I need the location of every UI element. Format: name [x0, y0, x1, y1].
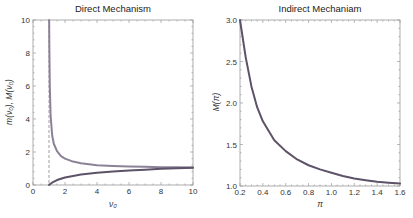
figure: Direct Mechanism 02468100246810 ν₀ m(ν₀)… — [0, 0, 413, 218]
y-tick-label: 6 — [26, 82, 31, 91]
y-tick-label: 4 — [26, 115, 31, 124]
y-tick-label: 2.5 — [226, 58, 238, 67]
x-tick-label: 2 — [63, 187, 68, 196]
x-tick-label: 10 — [189, 187, 198, 196]
x-tick-label: 0.4 — [257, 188, 269, 197]
x-tick-label: 0.6 — [280, 188, 292, 197]
y-tick-label: 1.0 — [226, 182, 238, 191]
y-axis-label-indirect: M(π) — [211, 93, 221, 112]
axis-ticks-indirect: 0.20.40.60.81.01.21.41.61.01.52.02.53.0 — [226, 16, 406, 197]
y-tick-label: 2 — [26, 148, 31, 157]
x-tick-label: 0.8 — [303, 188, 315, 197]
x-tick-label: 1.2 — [349, 188, 361, 197]
x-axis-label-indirect: π — [317, 199, 323, 209]
x-tick-label: 0 — [31, 187, 36, 196]
y-tick-label: 1.5 — [226, 141, 238, 150]
x-tick-label: 1.6 — [394, 188, 406, 197]
y-tick-label: 8 — [26, 49, 31, 58]
y-tick-label: 2.0 — [226, 99, 238, 108]
y-tick-label: 0 — [26, 181, 31, 190]
x-tick-label: 8 — [159, 187, 164, 196]
y-tick-label: 3.0 — [226, 16, 238, 25]
plot-frame-indirect — [240, 20, 400, 186]
indirect-mechanism-chart: Indirect Mechaniam 0.20.40.60.81.01.21.4… — [211, 3, 406, 209]
y-axis-label-direct: m(ν₀), M(ν₀) — [4, 79, 14, 125]
chart-title-direct: Direct Mechanism — [75, 3, 151, 14]
x-tick-label: 1.4 — [372, 188, 384, 197]
plot-frame-direct — [33, 20, 193, 185]
data-series-line — [49, 168, 193, 185]
x-tick-label: 4 — [95, 187, 100, 196]
data-series-line — [240, 20, 400, 184]
x-tick-label: 1.0 — [326, 188, 338, 197]
chart-title-indirect: Indirect Mechaniam — [279, 3, 362, 14]
direct-mechanism-chart: Direct Mechanism 02468100246810 ν₀ m(ν₀)… — [4, 3, 198, 209]
series-group-direct — [49, 20, 193, 185]
y-tick-label: 10 — [21, 16, 30, 25]
data-series-line — [49, 20, 193, 168]
series-group-indirect — [240, 20, 400, 184]
x-axis-label-direct: ν₀ — [109, 199, 117, 209]
x-tick-label: 6 — [127, 187, 132, 196]
